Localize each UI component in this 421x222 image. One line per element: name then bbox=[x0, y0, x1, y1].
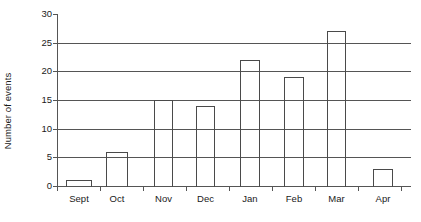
bar bbox=[284, 77, 304, 187]
y-axis-tick-mark bbox=[53, 43, 57, 44]
gridline bbox=[57, 129, 411, 130]
bar bbox=[327, 31, 346, 187]
x-axis-tick-label: Oct bbox=[110, 193, 125, 204]
bar bbox=[154, 100, 173, 187]
bar bbox=[240, 60, 260, 187]
x-axis-tick-label: Mar bbox=[328, 193, 344, 204]
y-axis-tick-mark bbox=[53, 100, 57, 101]
x-axis-tick-mark bbox=[143, 187, 144, 191]
x-axis-tick-mark bbox=[186, 187, 187, 191]
x-axis-tick-mark bbox=[100, 187, 101, 191]
bar bbox=[196, 106, 215, 187]
y-axis-tick-mark bbox=[53, 129, 57, 130]
bar bbox=[66, 180, 92, 187]
x-axis-tick-mark bbox=[272, 187, 273, 191]
bar bbox=[373, 169, 393, 187]
x-axis-tick-mark bbox=[57, 187, 58, 191]
bar-chart: Number of events 051015202530 SeptOctNov… bbox=[0, 0, 421, 222]
x-axis-tick-mark bbox=[358, 187, 359, 191]
x-axis-tick-mark bbox=[401, 187, 402, 191]
y-axis-tick-mark bbox=[53, 14, 57, 15]
x-axis-tick-label: Sept bbox=[69, 193, 89, 204]
gridline bbox=[57, 71, 411, 72]
x-axis-tick-label: Nov bbox=[155, 193, 172, 204]
x-axis-tick-label: Feb bbox=[286, 193, 302, 204]
x-axis-tick-label: Dec bbox=[197, 193, 214, 204]
gridline bbox=[57, 100, 411, 101]
bar bbox=[106, 152, 128, 187]
y-axis-tick-mark bbox=[53, 71, 57, 72]
y-axis-tick-mark bbox=[53, 157, 57, 158]
x-axis-tick-mark bbox=[229, 187, 230, 191]
plot-area: SeptOctNovDecJanFebMarApr bbox=[0, 0, 421, 222]
x-axis-tick-label: Jan bbox=[242, 193, 257, 204]
x-axis-tick-mark bbox=[315, 187, 316, 191]
gridline bbox=[57, 43, 411, 44]
x-axis-tick-label: Apr bbox=[376, 193, 391, 204]
